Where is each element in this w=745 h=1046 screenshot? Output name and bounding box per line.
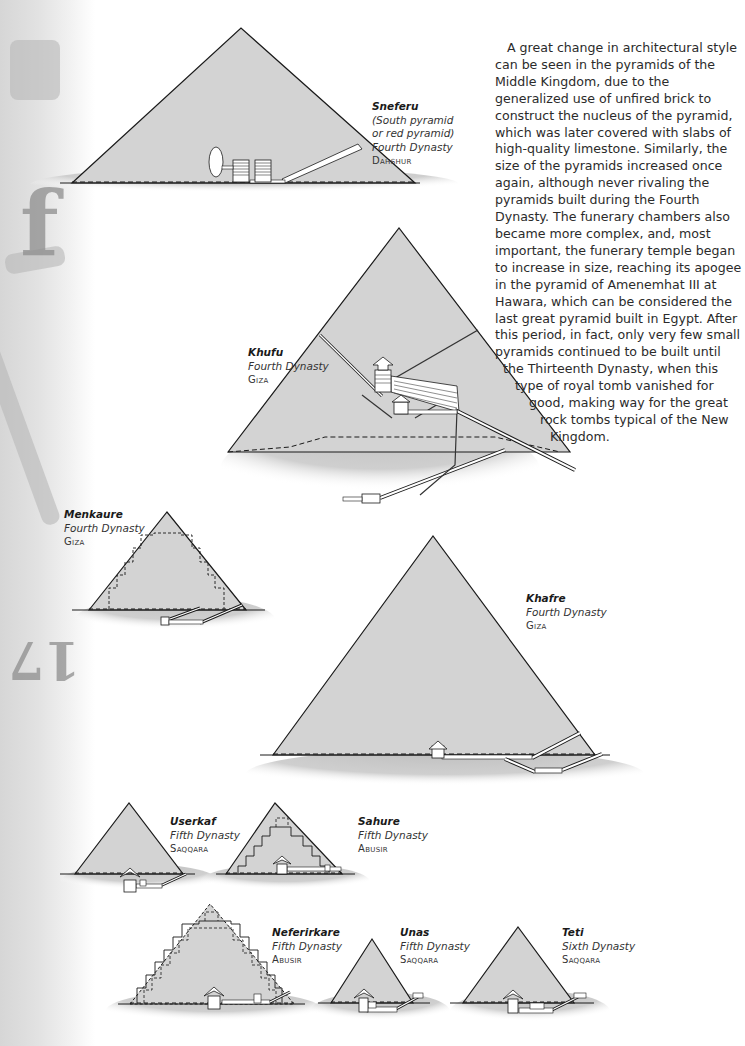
caption-site: Giza: [64, 535, 145, 549]
caption-name: Sneferu: [372, 100, 454, 114]
body-text-line: construct the nucleus of the pyramid,: [495, 108, 745, 125]
caption-neferirkare: Neferirkare Fifth Dynasty Abusir: [272, 926, 342, 967]
caption-dynasty: Sixth Dynasty: [562, 940, 635, 954]
body-text-line: type of royal tomb vanished for: [495, 378, 745, 395]
body-text-line: to increase in size, reaching its apogee: [495, 260, 745, 277]
body-text-line: Hawara, which can be considered the: [495, 294, 745, 311]
body-text-line: can be seen in the pyramids of the: [495, 57, 745, 74]
caption-sneferu: Sneferu (South pyramid or red pyramid) F…: [372, 100, 454, 168]
caption-sahure: Sahure Fifth Dynasty Abusir: [358, 815, 428, 856]
caption-dynasty: Fifth Dynasty: [170, 829, 240, 843]
caption-name: Userkaf: [170, 815, 240, 829]
caption-name: Khafre: [526, 592, 607, 606]
caption-site: Saqqara: [170, 842, 240, 856]
caption-name: Khufu: [248, 346, 329, 360]
body-text-line: again, although never rivaling the: [495, 175, 745, 192]
body-text-line: pyramids built during the Fourth: [495, 192, 745, 209]
caption-menkaure: Menkaure Fourth Dynasty Giza: [64, 508, 145, 549]
body-text-line: Middle Kingdom, due to the: [495, 74, 745, 91]
caption-dynasty: Fourth Dynasty: [248, 360, 329, 374]
body-text-line: last great pyramid built in Egypt. After: [495, 311, 745, 328]
caption-site: Abusir: [358, 842, 428, 856]
pyramid-khafre: [245, 536, 645, 801]
body-text: A great change in architectural style ca…: [495, 40, 745, 446]
body-text-line: generalized use of unfired brick to: [495, 91, 745, 108]
caption-khufu: Khufu Fourth Dynasty Giza: [248, 346, 329, 387]
caption-name: Unas: [400, 926, 470, 940]
body-text-line: this period, in fact, only very few smal…: [495, 327, 745, 344]
caption-dynasty: Fourth Dynasty: [372, 141, 454, 155]
body-text-line: good, making way for the great: [495, 395, 745, 412]
body-text-line: high-quality limestone. Similarly, the: [495, 141, 745, 158]
body-text-line: rock tombs typical of the New: [495, 412, 745, 429]
caption-dynasty: Fourth Dynasty: [64, 522, 145, 536]
caption-userkaf: Userkaf Fifth Dynasty Saqqara: [170, 815, 240, 856]
caption-site: Giza: [526, 619, 607, 633]
body-text-line: Kingdom.: [495, 429, 745, 446]
body-text-line: pyramids continued to be built until: [495, 344, 745, 361]
body-text-line: which was later covered with slabs of: [495, 125, 745, 142]
body-text-line: important, the funerary temple began: [495, 243, 745, 260]
caption-site: Saqqara: [400, 953, 470, 967]
caption-note: (South pyramid: [372, 114, 454, 128]
body-text-line: in the pyramid of Amenemhat III at: [495, 277, 745, 294]
caption-site: Abusir: [272, 953, 342, 967]
caption-site: Saqqara: [562, 953, 635, 967]
caption-name: Teti: [562, 926, 635, 940]
caption-teti: Teti Sixth Dynasty Saqqara: [562, 926, 635, 967]
caption-site: Giza: [248, 373, 329, 387]
body-text-line: A great change in architectural style: [495, 40, 745, 57]
caption-khafre: Khafre Fourth Dynasty Giza: [526, 592, 607, 633]
caption-unas: Unas Fifth Dynasty Saqqara: [400, 926, 470, 967]
body-text-line: the Thirteenth Dynasty, when this: [495, 361, 745, 378]
pyramid-neferirkare: [105, 904, 325, 1034]
caption-name: Menkaure: [64, 508, 145, 522]
caption-name: Neferirkare: [272, 926, 342, 940]
caption-dynasty: Fifth Dynasty: [358, 829, 428, 843]
body-text-line: became more complex, and, most: [495, 226, 745, 243]
body-text-line: size of the pyramids increased once: [495, 158, 745, 175]
body-text-line: Dynasty. The funerary chambers also: [495, 209, 745, 226]
caption-name: Sahure: [358, 815, 428, 829]
caption-dynasty: Fifth Dynasty: [272, 940, 342, 954]
caption-dynasty: Fourth Dynasty: [526, 606, 607, 620]
caption-dynasty: Fifth Dynasty: [400, 940, 470, 954]
caption-site: Dahshur: [372, 154, 454, 168]
caption-note: or red pyramid): [372, 127, 454, 141]
